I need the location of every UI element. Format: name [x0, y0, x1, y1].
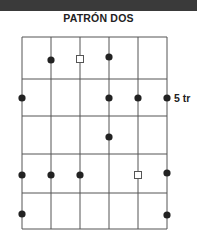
- note-dot: [163, 211, 170, 218]
- root-note-square: [77, 56, 84, 63]
- note-dot: [18, 94, 25, 101]
- fretboard-grid: [0, 0, 197, 241]
- root-note-square: [135, 172, 142, 179]
- note-dot: [47, 56, 54, 63]
- note-dot: [47, 171, 54, 178]
- note-dot: [76, 171, 83, 178]
- fret-position-label: 5 tr: [174, 92, 190, 104]
- note-dot: [105, 94, 112, 101]
- note-dot: [105, 133, 112, 140]
- note-dot: [134, 94, 141, 101]
- note-dot: [163, 94, 170, 101]
- note-dot: [105, 53, 112, 60]
- note-dot: [163, 169, 170, 176]
- scale-pattern-diagram: PATRÓN DOS 5 tr: [0, 0, 197, 241]
- note-dot: [18, 210, 25, 217]
- note-dot: [18, 171, 25, 178]
